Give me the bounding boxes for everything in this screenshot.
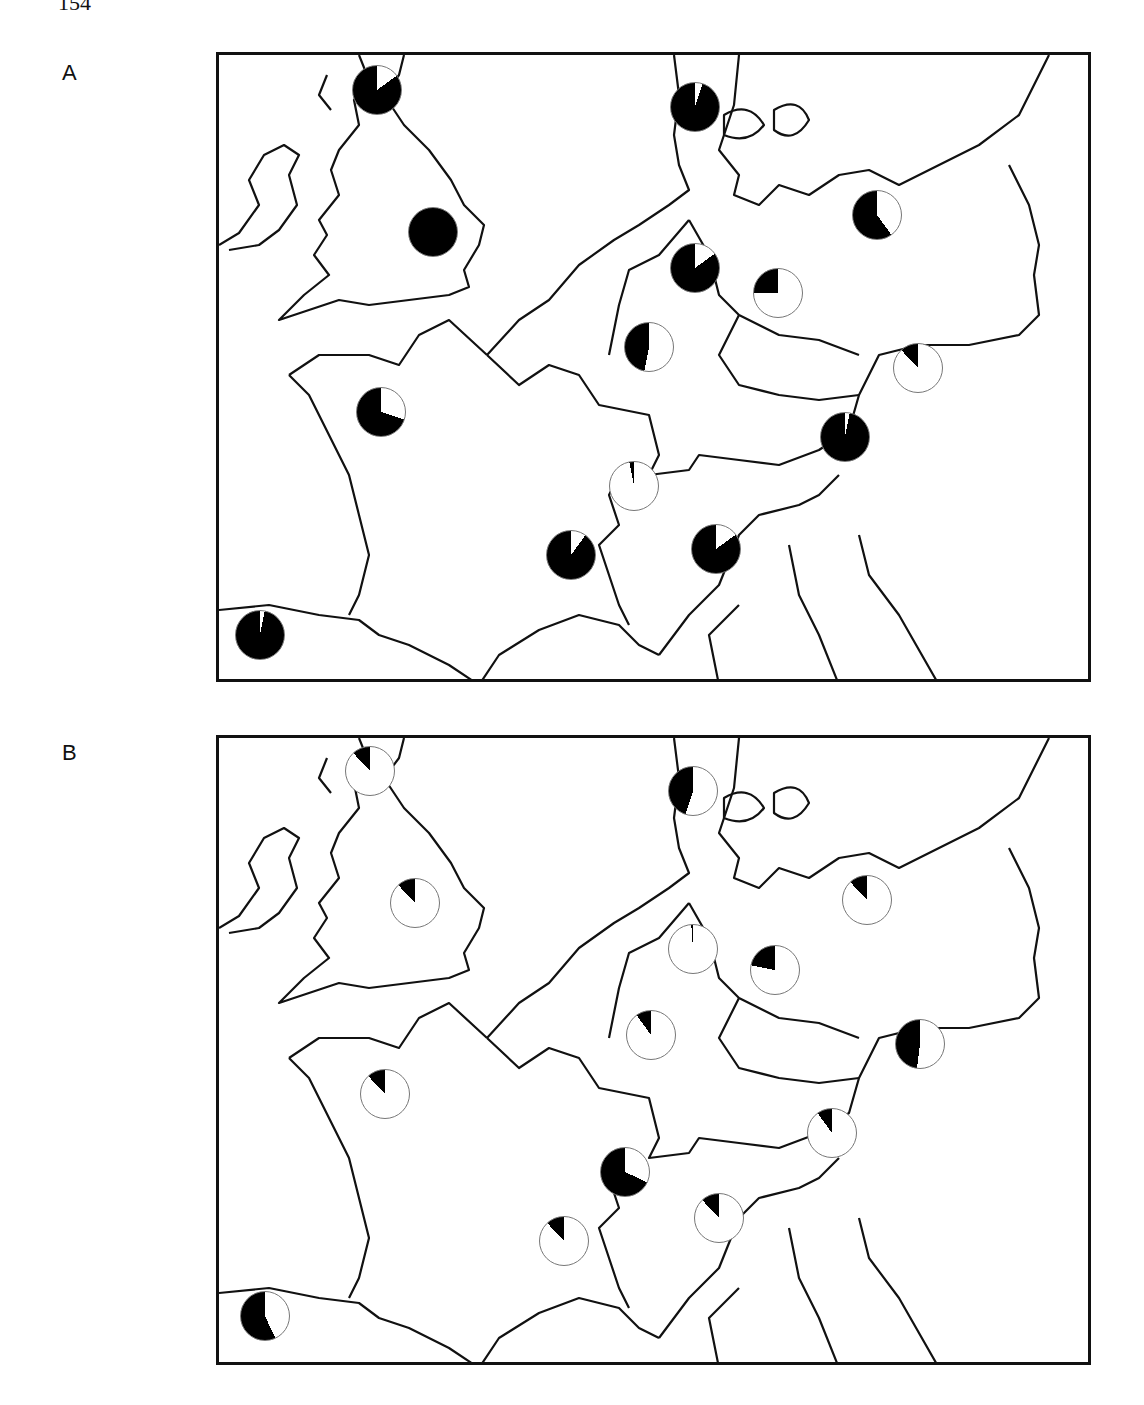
pie-chart-b-scotland — [345, 746, 395, 796]
pie-chart-a-france-brittany — [356, 387, 406, 437]
panel-label-b: B — [62, 740, 77, 766]
pie-chart-b-poland-north — [842, 875, 892, 925]
pie-chart-b-france-brittany — [360, 1069, 410, 1119]
pie-chart-a-spain-north — [235, 610, 285, 660]
pie-chart-b-spain-north — [240, 1291, 290, 1341]
pie-chart-b-england — [390, 878, 440, 928]
page-number: 154 — [58, 0, 91, 16]
pie-chart-a-denmark-jutland — [670, 82, 720, 132]
pie-chart-a-germany-north — [670, 243, 720, 293]
pie-chart-a-east-germany — [753, 268, 803, 318]
pie-chart-b-italy-north — [694, 1193, 744, 1243]
pie-chart-a-italy-north — [691, 524, 741, 574]
pie-chart-b-germany-north — [668, 924, 718, 974]
pie-chart-a-poland-north — [852, 190, 902, 240]
pie-chart-b-east-germany — [750, 945, 800, 995]
pie-chart-b-denmark-jutland — [668, 766, 718, 816]
pie-chart-a-czechoslovakia — [893, 343, 943, 393]
pie-chart-a-scotland — [352, 65, 402, 115]
pie-chart-a-austria — [820, 412, 870, 462]
pie-chart-a-switzerland — [609, 461, 659, 511]
pie-chart-b-austria — [807, 1108, 857, 1158]
pie-chart-a-france-south — [546, 530, 596, 580]
pie-chart-b-czechoslovakia — [895, 1019, 945, 1069]
pie-chart-b-germany-central — [626, 1010, 676, 1060]
pie-chart-b-france-south — [539, 1216, 589, 1266]
pie-chart-a-germany-central — [624, 322, 674, 372]
panel-label-a: A — [62, 60, 77, 86]
pie-chart-b-switzerland — [600, 1147, 650, 1197]
pie-chart-a-england — [408, 207, 458, 257]
